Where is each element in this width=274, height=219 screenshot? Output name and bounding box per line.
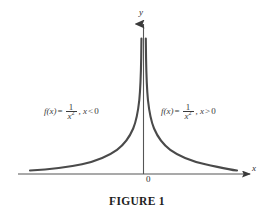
right-fraction: 1x2 [183,103,194,121]
left-fraction: 1x2 [66,103,77,121]
left-condition-value: 0 [94,106,99,116]
right-condition-value: 0 [211,106,216,116]
right-branch-equation: f(x)=1x2, x>0 [161,103,216,121]
right-equals-sign: = [174,106,181,116]
left-equals-sign: = [57,106,64,116]
right-denominator: x2 [183,112,194,121]
plot-area [0,0,274,190]
x-axis-label: x [252,163,256,173]
figure-caption: FIGURE 1 [0,195,274,207]
left-denominator: x2 [66,112,77,121]
figure-container: f(x)=1x2, x<0 f(x)=1x2, x>0 y x 0 FIGURE… [0,0,274,219]
left-denominator-exponent: 2 [72,110,75,116]
right-function-name: f(x) [161,106,174,116]
origin-label: 0 [146,174,151,184]
right-denominator-exponent: 2 [189,110,192,116]
left-condition-variable: , x [79,106,88,116]
right-condition-variable: , x [196,106,205,116]
left-function-name: f(x) [44,106,57,116]
graph-svg [0,0,274,190]
y-axis-label: y [139,7,143,17]
left-branch-equation: f(x)=1x2, x<0 [44,103,99,121]
